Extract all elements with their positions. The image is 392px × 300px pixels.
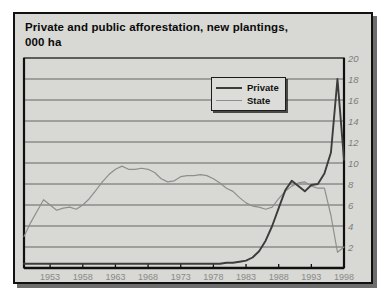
y-axis-tick: 18: [348, 74, 370, 85]
x-axis-tick: 1973: [171, 272, 191, 282]
y-axis-tick: 2: [348, 242, 370, 253]
y-axis-tick: 16: [348, 95, 370, 106]
y-axis-tick: 14: [348, 116, 370, 127]
legend-swatch-state: [216, 100, 242, 101]
y-axis-tick: 6: [348, 200, 370, 211]
x-axis-tick: 1988: [269, 272, 289, 282]
y-axis-tick: 10: [348, 158, 370, 169]
x-axis-tick: 1968: [138, 272, 158, 282]
x-axis-tick: 1978: [203, 272, 223, 282]
y-axis-labels: 2468101214161820: [348, 58, 372, 268]
x-axis-tick: 1993: [301, 272, 321, 282]
legend-item-state: State: [216, 94, 279, 107]
legend-label-state: State: [247, 95, 270, 106]
chart-figure: Private and public afforestation, new pl…: [13, 12, 373, 284]
chart-legend: Private State: [211, 77, 286, 111]
plot-area: [24, 58, 344, 268]
x-axis-tick: 1953: [40, 272, 60, 282]
legend-label-private: Private: [247, 82, 279, 93]
legend-swatch-private: [216, 87, 242, 89]
y-axis-tick: 4: [348, 221, 370, 232]
x-axis-tick: 1963: [105, 272, 125, 282]
legend-item-private: Private: [216, 81, 279, 94]
x-axis-tick: 1958: [73, 272, 93, 282]
x-axis-labels: 1953195819631968197319781983198819931998: [24, 272, 344, 286]
x-axis-tick: 1983: [236, 272, 256, 282]
y-axis-tick: 8: [348, 179, 370, 190]
y-axis-tick: 12: [348, 137, 370, 148]
chart-canvas: [24, 58, 344, 268]
y-axis-tick: 20: [348, 53, 370, 64]
x-axis-tick: 1998: [334, 272, 354, 282]
chart-title: Private and public afforestation, new pl…: [25, 20, 355, 50]
